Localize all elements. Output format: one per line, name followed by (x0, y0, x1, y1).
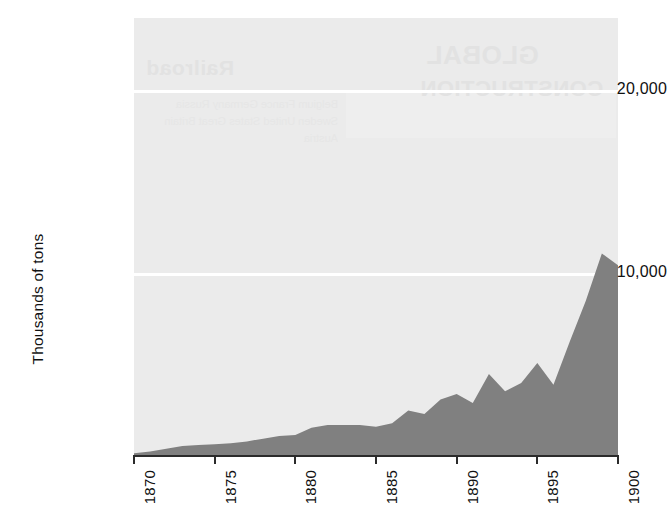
x-tick-1880 (294, 455, 296, 464)
x-tick-label-1895: 1895 (544, 470, 561, 504)
x-tick-label-1870: 1870 (141, 470, 158, 504)
x-tick-1875 (214, 455, 216, 464)
x-tick-label-1875: 1875 (222, 470, 239, 504)
x-tick-1895 (536, 455, 538, 464)
x-tick-1885 (375, 455, 377, 464)
y-tick-label-10000: 10,000 (545, 263, 667, 281)
x-tick-label-1885: 1885 (383, 470, 400, 504)
y-axis-title: Thousands of tons (29, 219, 47, 379)
chart-figure: Railroad GLOBAL CONSTRUCTION Belgium Fra… (0, 0, 667, 529)
x-tick-label-1890: 1890 (464, 470, 481, 504)
y-tick-label-20000: 20,000 (545, 80, 667, 98)
x-tick-1870 (133, 455, 135, 464)
x-tick-1890 (456, 455, 458, 464)
x-tick-label-1900: 1900 (625, 470, 642, 504)
x-tick-label-1880: 1880 (302, 470, 319, 504)
x-tick-1900 (617, 455, 619, 464)
